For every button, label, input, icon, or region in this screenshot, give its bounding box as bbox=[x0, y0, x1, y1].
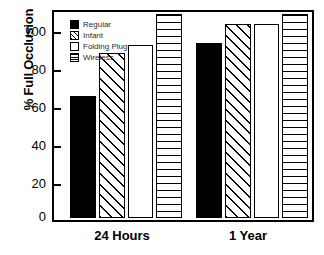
y-tick-label: 0 bbox=[4, 209, 46, 224]
bar-group-1-year bbox=[196, 14, 308, 218]
legend-item-wireless: Wireless bbox=[70, 52, 127, 63]
y-tick-label: 80 bbox=[4, 62, 46, 77]
legend-label: Infant bbox=[83, 31, 103, 40]
bar-folding-plug-24-hours bbox=[128, 45, 154, 218]
chart-legend: Regular Infant Folding Plug Wireless bbox=[68, 18, 129, 64]
legend-swatch-plain-icon bbox=[70, 42, 79, 51]
bar-infant-1-year bbox=[225, 24, 251, 218]
x-axis-label-1-year: 1 Year bbox=[192, 228, 304, 243]
x-axis-label-24-hours: 24 Hours bbox=[66, 228, 178, 243]
bar-folding-plug-1-year bbox=[254, 24, 280, 218]
y-tick-label: 40 bbox=[4, 138, 46, 153]
legend-item-folding-plug: Folding Plug bbox=[70, 41, 127, 52]
legend-label: Wireless bbox=[83, 53, 114, 62]
legend-item-regular: Regular bbox=[70, 19, 127, 30]
legend-swatch-hlines-icon bbox=[70, 53, 79, 62]
bar-infant-24-hours bbox=[99, 53, 125, 218]
bar-regular-1-year bbox=[196, 43, 222, 218]
legend-swatch-hatch-icon bbox=[70, 31, 79, 40]
y-tick-label: 60 bbox=[4, 100, 46, 115]
legend-item-infant: Infant bbox=[70, 30, 127, 41]
bar-wireless-24-hours bbox=[156, 14, 182, 218]
legend-label: Folding Plug bbox=[83, 42, 127, 51]
bar-wireless-1-year bbox=[282, 14, 308, 218]
legend-swatch-solid-icon bbox=[70, 20, 79, 29]
legend-label: Regular bbox=[83, 20, 111, 29]
plot-frame: Regular Infant Folding Plug Wireless bbox=[52, 10, 314, 222]
y-tick-label: 100 bbox=[4, 24, 46, 39]
x-axis-label-layer: 24 Hours 1 Year bbox=[52, 228, 314, 250]
bar-regular-24-hours bbox=[70, 96, 96, 218]
bar-chart-figure: % Full Occlusion 100 80 60 40 20 0 bbox=[0, 0, 324, 255]
y-tick-label: 20 bbox=[4, 176, 46, 191]
